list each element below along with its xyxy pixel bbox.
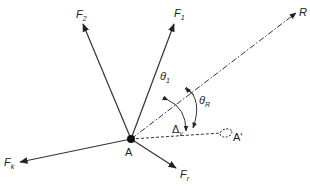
label-r: R — [299, 6, 307, 18]
displaced-point-marker — [219, 128, 233, 139]
resultant-line — [131, 13, 296, 139]
point-a — [127, 135, 135, 143]
label-thetaR: θR — [199, 94, 210, 108]
label-theta1: θ1 — [160, 70, 170, 84]
label-f2: F2 — [76, 8, 87, 22]
label-a-prime: A' — [233, 131, 242, 143]
label-fr: Fr — [180, 168, 190, 182]
force-fr-arrow — [131, 139, 176, 168]
label-a: A — [125, 146, 133, 158]
force-fk-arrow — [20, 139, 131, 162]
label-f1: F1 — [174, 7, 185, 21]
label-fk: Fk — [4, 156, 15, 170]
force-diagram: F2 F1 R Fk Fr A A' θ1 θR Δv — [0, 0, 310, 187]
force-f2-arrow — [83, 24, 131, 139]
label-delta-v: Δv — [172, 123, 183, 137]
